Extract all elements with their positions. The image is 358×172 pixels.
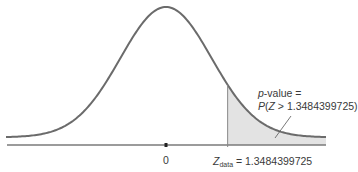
p-value-label: p-value = <box>258 87 302 99</box>
p-value-text: -value = <box>264 87 302 99</box>
z-data-label: Zdata = 1.3484399725 <box>213 155 312 171</box>
z-data-value: = 1.3484399725 <box>233 155 312 167</box>
zero-tick <box>165 143 168 147</box>
probability-expression: P(Z > 1.3484399725) <box>258 100 358 112</box>
probability-rest: > 1.3484399725) <box>275 100 358 112</box>
z-subscript: data <box>219 161 233 168</box>
normal-density-curve <box>6 7 326 137</box>
P-italic: P <box>258 100 265 112</box>
zero-label: 0 <box>163 154 169 166</box>
